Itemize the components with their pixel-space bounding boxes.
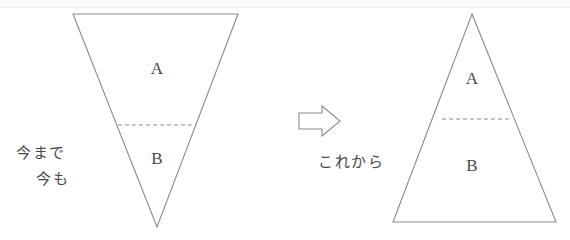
left-segment-b-label: B: [151, 149, 162, 168]
left-inverted-triangle-group: A B: [73, 14, 238, 227]
right-segment-a-label: A: [466, 69, 479, 88]
upright-triangle-shape: [393, 14, 556, 222]
right-upright-triangle-group: A B: [393, 14, 556, 222]
inverted-triangle-shape: [73, 14, 238, 227]
caption-current-line1: 今まで: [16, 146, 66, 161]
arrow-group: [299, 106, 340, 136]
left-segment-a-label: A: [151, 59, 164, 78]
caption-current-line2: 今も: [36, 172, 69, 187]
figure-canvas: A B A B 今まで 今も これから: [0, 0, 570, 240]
diagram-graphics: A B A B: [0, 0, 570, 240]
caption-future-line1: これから: [318, 155, 384, 170]
right-segment-b-label: B: [466, 156, 477, 175]
rightward-arrow-icon: [299, 106, 340, 136]
